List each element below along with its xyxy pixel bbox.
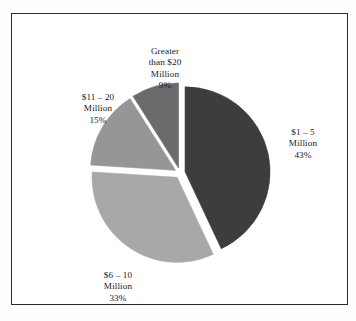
pie-label-line: $6 – 10	[68, 270, 168, 281]
pie-label-line: $11 – 20	[50, 92, 146, 103]
pie-label-11-20-million: $11 – 20 Million 15%	[50, 92, 146, 126]
pie-label-6-10-million: $6 – 10 Million 33%	[68, 270, 168, 304]
pie-label-percent: 43%	[260, 150, 346, 161]
chart-frame: Greater than $20 Million 9% $11 – 20 Mil…	[11, 13, 348, 305]
pie-label-percent: 9%	[115, 80, 215, 91]
pie-label-line: Million	[50, 103, 146, 114]
pie-label-percent: 33%	[68, 293, 168, 304]
pie-label-percent: 15%	[50, 115, 146, 126]
pie-label-line: Greater	[115, 46, 215, 57]
pie-label-greater-than-20-million: Greater than $20 Million 9%	[115, 46, 215, 91]
pie-label-line: $1 – 5	[260, 127, 346, 138]
pie-label-line: Million	[260, 138, 346, 149]
pie-label-1-5-million: $1 – 5 Million 43%	[260, 127, 346, 161]
figure-root: Greater than $20 Million 9% $11 – 20 Mil…	[0, 0, 356, 321]
pie-label-line: Million	[68, 281, 168, 292]
pie-label-line: than $20	[115, 57, 215, 68]
pie-label-line: Million	[115, 69, 215, 80]
